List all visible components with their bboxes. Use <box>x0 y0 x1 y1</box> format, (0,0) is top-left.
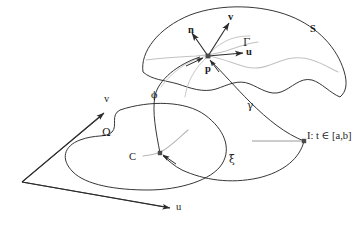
point-p-marker <box>206 54 211 59</box>
surface-patch-outline <box>143 7 346 97</box>
curve-gamma-branch-sw <box>161 56 208 87</box>
label-surface-s: S <box>310 24 316 35</box>
label-axis-v: v <box>104 94 109 105</box>
map-phi-curve <box>154 57 200 153</box>
map-gamma-curve <box>211 61 304 141</box>
label-domain-omega: Ω <box>102 127 111 138</box>
parameter-plane <box>22 104 210 227</box>
axis-v-arrow <box>22 113 104 182</box>
label-axis-u: u <box>176 202 181 213</box>
label-map-phi: ϕ <box>151 90 157 100</box>
label-curve-c: C <box>129 152 136 163</box>
label-vector-n: n <box>188 25 194 36</box>
diagram-svg <box>0 0 363 227</box>
normal-vector-n <box>192 33 208 56</box>
map-xi-arrowhead <box>163 155 176 164</box>
figure-canvas: S Ω Γ C p n v u ϕ γ ξ v u I: t ∈ [a,b] <box>0 0 363 227</box>
axis-u-arrow <box>22 182 170 208</box>
label-interval: I: t ∈ [a,b] <box>307 131 352 142</box>
label-map-xi: ξ <box>229 154 235 165</box>
curve-gamma-right <box>208 56 338 72</box>
point-t-marker <box>302 139 306 143</box>
label-map-gamma: γ <box>247 100 253 111</box>
label-vector-v: v <box>228 12 233 23</box>
point-c-marker <box>158 151 162 155</box>
map-gamma-arrowhead <box>210 60 219 72</box>
curve-c-path <box>143 130 188 156</box>
plane-edge-far <box>100 104 210 117</box>
label-vector-u: u <box>246 47 252 58</box>
label-point-p: p <box>205 64 211 75</box>
